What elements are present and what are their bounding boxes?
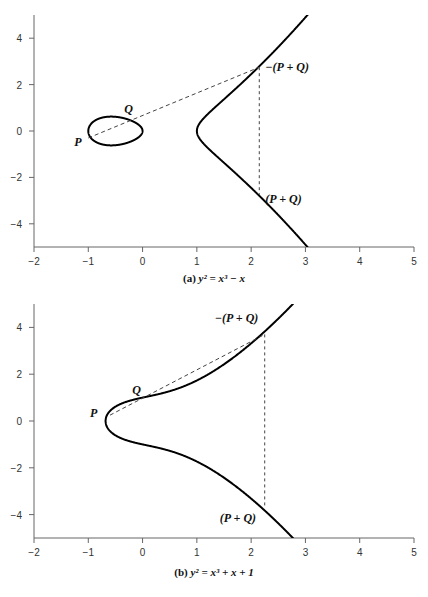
curve-oval [88,117,142,146]
y-tick-label: 0 [16,416,22,427]
y-tick-label: −4 [11,219,23,230]
x-tick-label: 3 [303,256,309,267]
x-tick-label: 1 [194,547,200,558]
point-label-p: P [74,135,82,149]
curve-branch [106,279,317,564]
secant-line [110,334,265,415]
point-label-sum: (P + Q) [265,192,301,206]
caption-equation: y² = x³ + x + 1 [188,566,253,578]
curve-branch [197,5,316,257]
point-label-sum: (P + Q) [220,511,256,525]
y-tick-label: −2 [11,172,23,183]
point-label-q: Q [124,102,133,116]
elliptic-curve-figure: −2−1012345420−2−4PQ−(P + Q)(P + Q)(a) y²… [0,0,428,597]
secant-line [88,67,259,138]
x-tick-label: 4 [357,547,363,558]
x-tick-label: 5 [411,256,417,267]
chart-panel-b: −2−1012345420−2−4PQ−(P + Q)(P + Q)(b) y²… [11,279,418,579]
y-tick-label: 2 [16,369,22,380]
x-tick-label: −1 [83,547,95,558]
chart-panel-a: −2−1012345420−2−4PQ−(P + Q)(P + Q)(a) y²… [11,5,418,285]
x-tick-label: 1 [194,256,200,267]
y-tick-label: −4 [11,510,23,521]
chart-caption: (a) y² = x³ − x [183,272,245,285]
x-tick-label: −2 [28,547,40,558]
point-label-neg-sum: −(P + Q) [265,60,309,74]
y-tick-label: 4 [16,33,22,44]
x-tick-label: −2 [28,256,40,267]
point-label-p: P [90,406,98,420]
y-tick-label: 0 [16,126,22,137]
x-tick-label: 3 [303,547,309,558]
y-tick-label: −2 [11,463,23,474]
point-label-q: Q [132,383,141,397]
x-tick-label: −1 [83,256,95,267]
chart-caption: (b) y² = x³ + x + 1 [174,566,254,579]
x-tick-label: 2 [248,547,254,558]
caption-prefix: (b) [174,566,190,579]
caption-prefix: (a) [183,272,199,285]
y-tick-label: 2 [16,80,22,91]
x-tick-label: 0 [140,547,146,558]
x-tick-label: 2 [248,256,254,267]
point-label-neg-sum: −(P + Q) [215,311,259,325]
x-tick-label: 0 [140,256,146,267]
x-tick-label: 4 [357,256,363,267]
x-tick-label: 5 [411,547,417,558]
y-tick-label: 4 [16,322,22,333]
caption-equation: y² = x³ − x [197,272,246,284]
